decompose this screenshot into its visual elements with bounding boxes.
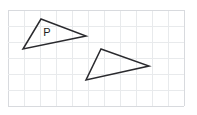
shape-label-p: P <box>43 26 50 38</box>
figure-container: P <box>0 0 197 115</box>
geometry-diagram: P <box>0 0 197 115</box>
